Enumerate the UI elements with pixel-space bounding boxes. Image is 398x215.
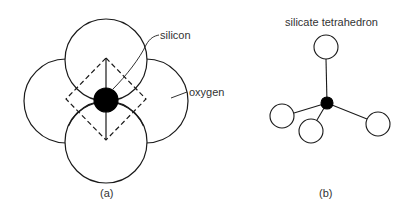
oxygen-b-top — [314, 35, 338, 59]
silicate-diagram: silicon oxygen (a) silicate tetrahedron … — [0, 0, 398, 215]
tetrahedron-title: silicate tetrahedron — [285, 16, 378, 28]
figure-a — [24, 19, 188, 183]
bond-top — [326, 59, 327, 103]
caption-b: (b) — [319, 187, 332, 199]
oxygen-b-bottom — [299, 119, 323, 143]
oxygen-label: oxygen — [189, 86, 224, 98]
oxygen-b-left — [270, 104, 294, 128]
figure-b — [270, 35, 390, 143]
oxygen-b-right — [366, 112, 390, 136]
silicon-b-atom — [321, 97, 333, 109]
caption-a: (a) — [100, 187, 113, 199]
silicon-label: silicon — [160, 29, 191, 41]
silicon-atom — [94, 88, 118, 112]
